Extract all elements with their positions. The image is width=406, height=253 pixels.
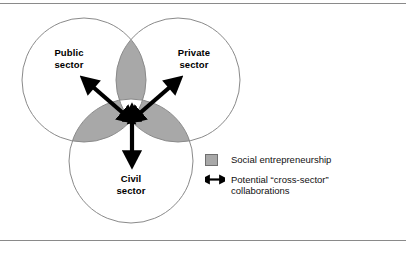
double-headed-arrow-icon [205,174,225,185]
legend-item-social-entrepreneurship: Social entrepreneurship [205,153,401,166]
legend: Social entrepreneurship Potential “cross… [205,153,401,203]
venn-diagram-graphic [0,0,406,253]
legend-marker-swatch [205,153,231,166]
legend-label-social-entrepreneurship: Social entrepreneurship [231,153,331,165]
legend-label-cross-sector-collaborations: Potential “cross-sector” collaborations [231,173,329,196]
venn-diagram-figure: Public sector Private sector Civil secto… [0,0,406,253]
circle-label-civil: Civil sector [100,173,162,196]
circle-label-public: Public sector [38,47,100,70]
legend-item-cross-sector-collaborations: Potential “cross-sector” collaborations [205,173,401,196]
gray-square-swatch-icon [205,154,218,166]
legend-marker-arrow [205,173,231,185]
bottom-divider-rule [0,240,406,241]
circle-label-private: Private sector [163,47,225,70]
